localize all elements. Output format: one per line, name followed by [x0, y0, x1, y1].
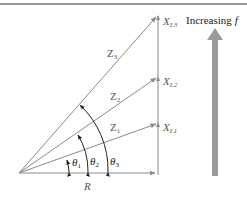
theta3-label: θ3 — [110, 155, 119, 169]
increasing-frequency-label: Increasingf — [186, 14, 240, 26]
theta1-arc — [67, 160, 69, 172]
theta2-label: θ2 — [90, 155, 99, 169]
xl1-arrow-icon — [156, 122, 160, 127]
xl3-arrow-icon — [156, 15, 160, 20]
xl2-arrow-icon — [156, 76, 160, 81]
z1-label: Z1 — [110, 121, 121, 135]
xl2-label: XL2 — [162, 75, 178, 89]
theta1-label: θ1 — [72, 156, 81, 170]
z3-label: Z3 — [107, 47, 118, 61]
increasing-frequency-arrow-icon — [207, 28, 223, 176]
phasor-diagram: Z1 Z2 Z3 XL1 XL2 XL3 θ1 θ2 θ3 R Increasi… — [0, 0, 247, 197]
resistance-label: R — [83, 180, 91, 192]
xl3-label: XL3 — [162, 15, 178, 29]
xl1-label: XL1 — [162, 121, 177, 135]
z3-vector — [19, 17, 156, 173]
z2-label: Z2 — [110, 90, 121, 104]
